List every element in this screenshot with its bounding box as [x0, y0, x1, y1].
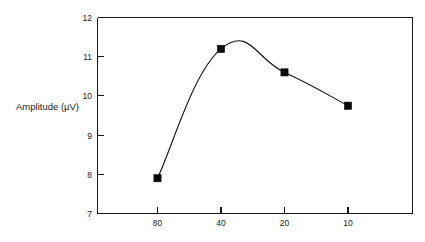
- data-point-marker: [344, 102, 351, 109]
- y-tick-label-12: 12: [83, 13, 93, 23]
- data-point-marker: [217, 45, 224, 52]
- x-tick-label-20: 20: [280, 218, 290, 228]
- x-tick-label-10: 10: [343, 218, 353, 228]
- y-tick-label-7: 7: [87, 209, 92, 219]
- data-line-curve: [158, 41, 349, 179]
- x-tick-label-40: 40: [216, 218, 226, 228]
- chart-figure: 12 11 10 9 8 7 Amplitude (µV) 80 40 20 1…: [0, 0, 425, 242]
- data-point-marker: [281, 69, 288, 76]
- y-axis-ticks: [98, 18, 104, 214]
- plot-frame: [98, 18, 413, 214]
- x-axis-tick-labels: 80 40 20 10: [153, 218, 353, 228]
- y-tick-label-10: 10: [83, 91, 93, 101]
- y-axis-title: Amplitude (µV): [16, 101, 79, 112]
- y-axis-tick-labels: 12 11 10 9 8 7: [83, 13, 93, 219]
- data-series-amplitude: [154, 41, 352, 182]
- y-tick-label-9: 9: [87, 131, 92, 141]
- x-tick-label-80: 80: [153, 218, 163, 228]
- data-point-marker: [154, 175, 161, 182]
- y-tick-label-11: 11: [83, 52, 92, 62]
- y-tick-label-8: 8: [87, 170, 92, 180]
- x-axis-ticks: [158, 207, 349, 214]
- chart-canvas: 12 11 10 9 8 7 Amplitude (µV) 80 40 20 1…: [0, 0, 425, 242]
